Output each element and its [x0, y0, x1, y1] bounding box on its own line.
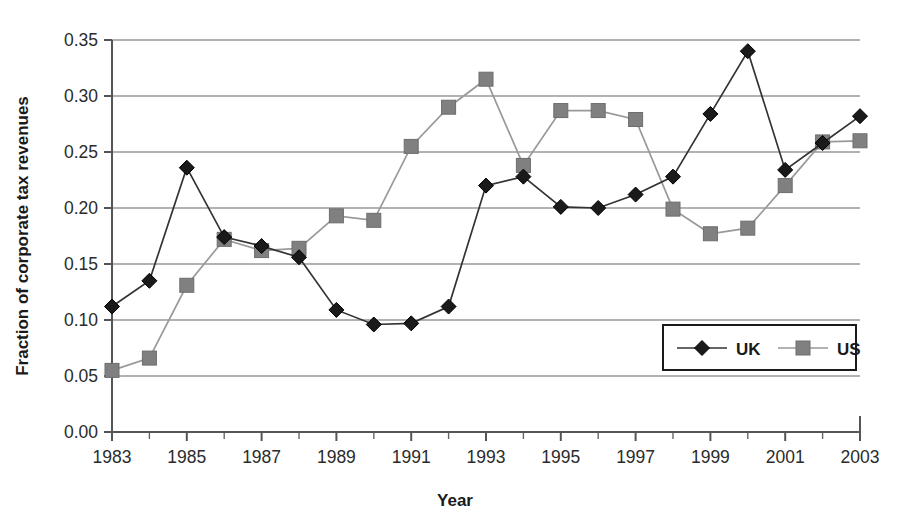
x-axis-title: Year: [437, 491, 473, 510]
x-tick-label: 1983: [93, 447, 132, 467]
data-point: [853, 134, 867, 148]
data-point: [741, 221, 755, 235]
x-tick-label: 2001: [766, 447, 805, 467]
y-tick-label: 0.15: [64, 254, 98, 274]
chart-figure: 0.000.050.100.150.200.250.300.35 1983198…: [0, 0, 898, 523]
data-point: [591, 104, 605, 118]
data-point: [404, 139, 418, 153]
data-point: [666, 202, 680, 216]
y-tick-label: 0.00: [64, 422, 98, 442]
data-point: [778, 179, 792, 193]
y-tick-label: 0.10: [64, 310, 98, 330]
legend-label-us: US: [837, 340, 861, 359]
x-tick-label: 1999: [691, 447, 730, 467]
data-point: [479, 72, 493, 86]
square-marker-icon: [796, 341, 810, 355]
y-axis-title: Fraction of corporate tax revenues: [13, 96, 32, 376]
y-tick-label: 0.30: [64, 86, 98, 106]
x-tick-label: 1985: [167, 447, 206, 467]
data-point: [105, 363, 119, 377]
line-chart: 0.000.050.100.150.200.250.300.35 1983198…: [0, 0, 898, 523]
legend-label-uk: UK: [736, 340, 761, 359]
data-point: [442, 100, 456, 114]
chart-background: [0, 0, 898, 523]
x-tick-label: 1991: [392, 447, 431, 467]
legend[interactable]: UK US: [663, 325, 861, 370]
x-tick-label: 1989: [317, 447, 356, 467]
y-tick-label: 0.20: [64, 198, 98, 218]
data-point: [367, 213, 381, 227]
data-point: [329, 209, 343, 223]
data-point: [180, 278, 194, 292]
x-tick-label: 1987: [242, 447, 281, 467]
data-point: [703, 227, 717, 241]
x-tick-label: 1995: [541, 447, 580, 467]
x-tick-label: 1993: [467, 447, 506, 467]
data-point: [142, 351, 156, 365]
x-tick-label: 2003: [841, 447, 880, 467]
y-tick-label: 0.25: [64, 142, 98, 162]
x-tick-label: 1997: [616, 447, 655, 467]
y-tick-label: 0.05: [64, 366, 98, 386]
data-point: [554, 104, 568, 118]
y-tick-label: 0.35: [64, 30, 98, 50]
data-point: [629, 113, 643, 127]
